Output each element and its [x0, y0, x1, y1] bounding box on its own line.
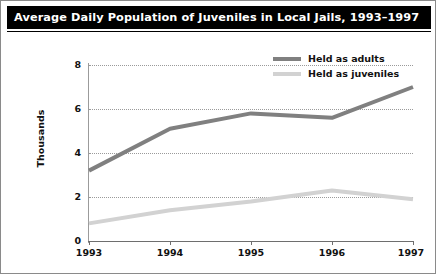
- y-axis-label: Thousands: [35, 94, 46, 184]
- legend-label-adults: Held as adults: [308, 53, 385, 64]
- y-tick-label-4: 4: [59, 147, 81, 158]
- x-tick-label-1993: 1993: [67, 247, 111, 258]
- legend-item-held-as-juveniles: Held as juveniles: [273, 66, 423, 81]
- y-tick-label-2: 2: [59, 191, 81, 202]
- legend-swatch-icon-juveniles: [273, 72, 301, 76]
- gridline-2: [89, 197, 413, 198]
- y-tick-label-6: 6: [59, 103, 81, 114]
- x-tick-label-1995: 1995: [229, 247, 273, 258]
- chart-title-bar: Average Daily Population of Juveniles in…: [7, 6, 431, 29]
- gridline-6: [89, 109, 413, 110]
- page-title: Average Daily Population of Juveniles in…: [14, 11, 419, 24]
- title-divider: [7, 31, 431, 32]
- x-tick-label-1997: 1997: [389, 247, 433, 258]
- legend-label-juveniles: Held as juveniles: [308, 68, 399, 79]
- plot-area: [89, 65, 413, 241]
- gridline-4: [89, 153, 413, 154]
- x-tick-mark-1993: [89, 241, 90, 245]
- legend-swatch-icon-adults: [273, 57, 301, 61]
- x-tick-mark-1994: [170, 241, 171, 245]
- y-tick-label-8: 8: [59, 59, 81, 70]
- chart-legend: Held as adults Held as juveniles: [273, 51, 423, 81]
- x-tick-label-1996: 1996: [310, 247, 354, 258]
- x-tick-label-1994: 1994: [148, 247, 192, 258]
- x-tick-mark-1997: [413, 241, 414, 245]
- x-tick-mark-1996: [332, 241, 333, 245]
- y-tick-label-0: 0: [59, 235, 81, 246]
- chart-figure: Average Daily Population of Juveniles in…: [0, 0, 436, 274]
- x-tick-mark-1995: [251, 241, 252, 245]
- legend-item-held-as-adults: Held as adults: [273, 51, 423, 66]
